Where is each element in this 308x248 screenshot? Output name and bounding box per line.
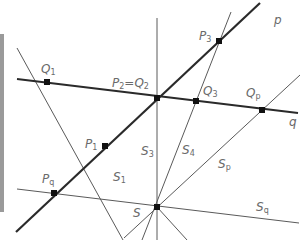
point-qp	[259, 107, 265, 113]
label-q3: Q3	[203, 85, 218, 99]
point-p3	[216, 38, 222, 44]
label-s1: S1	[113, 171, 126, 185]
label-s: S	[133, 207, 141, 219]
label-q: q	[289, 116, 297, 128]
point-pq	[51, 190, 57, 196]
label-p3: P3	[199, 30, 211, 44]
point-q3	[193, 98, 199, 104]
label-qp: Qp	[246, 87, 261, 101]
label-p1: P1	[85, 138, 97, 152]
point-s	[154, 204, 160, 210]
label-p: p	[274, 14, 282, 26]
line-extra	[157, 207, 187, 240]
point-p1	[102, 143, 108, 149]
point-p2-q2	[154, 95, 160, 101]
line-p	[16, 3, 260, 232]
label-sp: Sp	[218, 158, 231, 172]
label-p2-q2: P2=Q2	[112, 77, 149, 91]
point-q1	[44, 79, 50, 85]
label-sq: Sq	[256, 201, 269, 215]
label-pq: Pq	[42, 173, 54, 187]
label-s3: S3	[141, 145, 154, 159]
label-q1: Q1	[41, 63, 56, 77]
label-s4: S4	[182, 144, 195, 158]
